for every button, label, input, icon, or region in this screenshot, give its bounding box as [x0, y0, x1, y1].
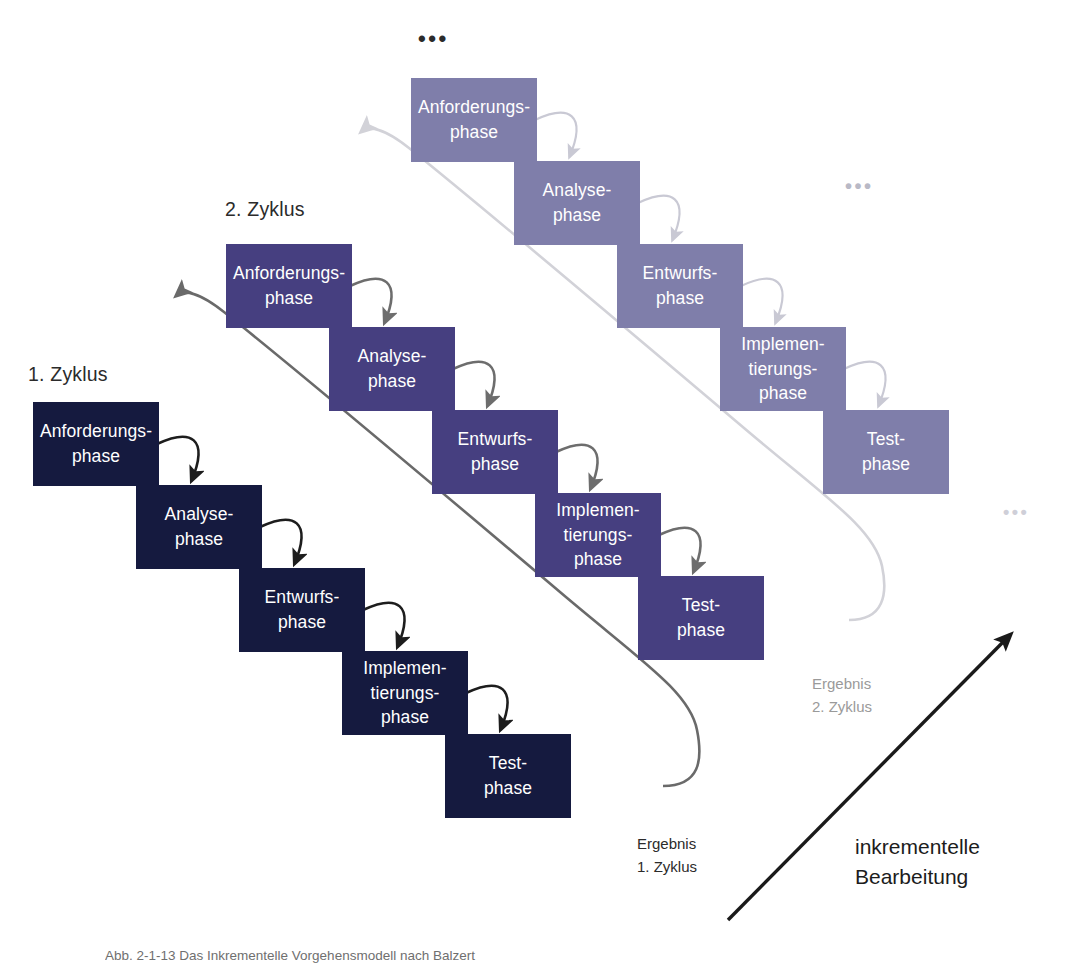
- phase-label: Implemen- tierungs- phase: [363, 656, 447, 731]
- mid-ellipsis: •••: [845, 176, 874, 196]
- cycle-2-arrow-1: [350, 279, 391, 323]
- phase-label: Analyse- phase: [543, 178, 612, 228]
- cycle-3-test-phase[interactable]: Test- phase: [823, 410, 949, 494]
- cycle-2-arrow-3: [556, 445, 597, 489]
- cycle-1-arrow-2: [260, 520, 301, 564]
- cycle-3-implemen-tierungs-phase[interactable]: Implemen- tierungs- phase: [720, 327, 846, 411]
- cycle-3-analyse-phase[interactable]: Analyse- phase: [514, 161, 640, 245]
- cycle-1-arrow-4: [466, 686, 507, 730]
- diagram-canvas: 1. ZyklusAnforderungs- phaseAnalyse- pha…: [0, 0, 1068, 964]
- figure-caption: Abb. 2-1-13 Das Inkrementelle Vorgehensm…: [105, 948, 1015, 963]
- phase-label: Anforderungs- phase: [418, 95, 530, 145]
- cycle-2-entwurfs-phase[interactable]: Entwurfs- phase: [432, 410, 558, 494]
- cycle-3-entwurfs-phase[interactable]: Entwurfs- phase: [617, 244, 743, 328]
- cycle-3-arrow-1: [535, 113, 576, 157]
- phase-label: Analyse- phase: [165, 502, 234, 552]
- cycle-2-test-phase[interactable]: Test- phase: [638, 576, 764, 660]
- phase-label: Test- phase: [484, 751, 532, 801]
- cycle-2-anforderungs-phase[interactable]: Anforderungs- phase: [226, 244, 352, 328]
- bottom-ellipsis: •••: [1003, 503, 1029, 521]
- top-ellipsis: •••: [418, 28, 449, 50]
- phase-label: Analyse- phase: [358, 344, 427, 394]
- incremental-processing-label: inkrementelle Bearbeitung: [855, 832, 980, 893]
- cycle-2-arrow-4: [659, 528, 700, 572]
- cycle-1-implemen-tierungs-phase[interactable]: Implemen- tierungs- phase: [342, 651, 468, 735]
- cycle-2-result-label: Ergebnis 2. Zyklus: [812, 672, 872, 719]
- cycle-1-result-label: Ergebnis 1. Zyklus: [637, 832, 697, 879]
- cycle-1-title: 1. Zyklus: [28, 363, 108, 386]
- cycle-1-entwurfs-phase[interactable]: Entwurfs- phase: [239, 568, 365, 652]
- cycle-2-title: 2. Zyklus: [225, 198, 305, 221]
- phase-label: Implemen- tierungs- phase: [741, 332, 825, 407]
- cycle-3-arrow-2: [638, 196, 679, 240]
- cycle-1-arrow-1: [157, 437, 198, 481]
- cycle-3-anforderungs-phase[interactable]: Anforderungs- phase: [411, 78, 537, 162]
- phase-label: Entwurfs- phase: [643, 261, 718, 311]
- cycle-3-arrow-4: [844, 362, 885, 406]
- phase-label: Test- phase: [862, 427, 910, 477]
- phase-label: Entwurfs- phase: [458, 427, 533, 477]
- phase-label: Anforderungs- phase: [40, 419, 152, 469]
- phase-label: Test- phase: [677, 593, 725, 643]
- cycle-2-analyse-phase[interactable]: Analyse- phase: [329, 327, 455, 411]
- cycle-2-arrow-2: [453, 362, 494, 406]
- cycle-1-anforderungs-phase[interactable]: Anforderungs- phase: [33, 402, 159, 486]
- cycle-3-arrow-3: [741, 279, 782, 323]
- phase-label: Implemen- tierungs- phase: [556, 498, 640, 573]
- phase-label: Entwurfs- phase: [265, 585, 340, 635]
- cycle-2-implemen-tierungs-phase[interactable]: Implemen- tierungs- phase: [535, 493, 661, 577]
- phase-label: Anforderungs- phase: [233, 261, 345, 311]
- cycle-1-arrow-3: [363, 603, 404, 647]
- cycle-1-test-phase[interactable]: Test- phase: [445, 734, 571, 818]
- cycle-1-analyse-phase[interactable]: Analyse- phase: [136, 485, 262, 569]
